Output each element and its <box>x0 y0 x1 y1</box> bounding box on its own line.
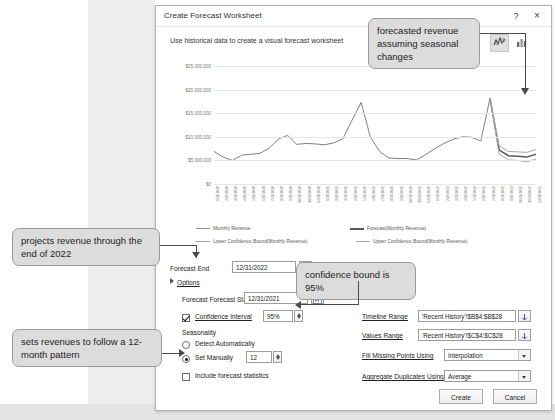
values-range-input[interactable]: 'Recent History'!$C$4:$C$28 <box>418 329 516 341</box>
callout-connector-confidence-v <box>358 281 359 305</box>
callout-projects-revenue: projects revenue through the end of 2022 <box>12 228 160 266</box>
options-label: Options <box>177 279 200 286</box>
cancel-button[interactable]: Cancel <box>493 389 537 404</box>
chart-series-line <box>490 98 536 152</box>
chart-x-tick-label: 7/31/2021 <box>381 186 385 201</box>
chevron-down-icon[interactable] <box>518 371 530 381</box>
set-manually-spinner[interactable] <box>273 351 282 363</box>
create-button[interactable]: Create <box>439 389 483 404</box>
set-manually-input[interactable]: 12 <box>246 351 272 363</box>
chart-y-tick-label: $25,000,000 <box>185 64 211 69</box>
forecast-start-label: Forecast Forecast Start <box>182 296 251 303</box>
values-range-label: Values Range <box>362 332 403 339</box>
legend-item-upper-bound: Upper Confidence Bound(Monthly Revenue) <box>356 239 467 244</box>
chart-x-tick-label: 1/31/2020 <box>216 186 220 201</box>
include-forecast-statistics-label: Include forecast statistics <box>195 372 269 379</box>
spinner-down-icon[interactable] <box>297 316 301 319</box>
legend-item-monthly-revenue: Monthly Revenue <box>196 226 250 231</box>
chart-x-tick-label: 5/31/2021 <box>363 186 367 201</box>
callout-connector-projects-h <box>160 245 197 246</box>
legend-swatch-line <box>196 241 210 242</box>
chart-y-tick-label: $0 <box>206 182 211 187</box>
chart-legend: Monthly Revenue Forecast(Monthly Revenue… <box>170 226 538 252</box>
aggregate-duplicates-label: Aggregate Duplicates Using <box>362 373 444 380</box>
close-icon[interactable]: × <box>530 9 544 23</box>
chart-x-tick-label: 6/30/2020 <box>262 186 266 201</box>
chart-x-tick-label: 9/30/2022 <box>510 186 514 201</box>
dialog-titlebar: Create Forecast Worksheet ? × <box>156 6 551 27</box>
chart-x-tick-label: 1/31/2021 <box>326 186 330 201</box>
chart-y-tick-label: $20,000,000 <box>185 87 211 92</box>
confidence-interval-input[interactable]: 95% <box>263 310 293 322</box>
confidence-interval-label: Confidence Interval <box>195 313 252 320</box>
chart-y-axis: $25,000,000$20,000,000$15,000,000$10,000… <box>170 66 211 184</box>
chart-x-tick-label: 4/30/2021 <box>354 186 358 201</box>
spinner-down-icon[interactable] <box>276 357 280 360</box>
chart-x-tick-label: 2/28/2022 <box>446 186 450 201</box>
chart-x-tick-label: 10/31/2022 <box>519 186 523 203</box>
create-forecast-worksheet-dialog: Create Forecast Worksheet ? × Use histor… <box>155 5 552 411</box>
options-expander[interactable]: Options <box>170 279 200 286</box>
chart-x-tick-label: 11/30/2022 <box>528 186 532 203</box>
chart-x-tick-label: 10/31/2021 <box>409 186 413 203</box>
aggregate-duplicates-select[interactable]: Average <box>444 370 531 382</box>
chart-x-tick-label: 3/31/2021 <box>344 186 348 201</box>
callout-seasonality: sets revenues to follow a 12-month patte… <box>12 329 162 367</box>
fill-missing-points-select[interactable]: Interpolation <box>444 349 531 361</box>
legend-item-forecast: Forecast(Monthly Revenue) <box>350 226 426 231</box>
callout-confidence-bound: confidence bound is 95% <box>296 262 416 300</box>
chart-x-tick-label: 8/31/2022 <box>501 186 505 201</box>
dialog-title: Create Forecast Worksheet <box>164 11 262 20</box>
callout-connector-seasonality-h <box>162 353 180 354</box>
line-chart-icon[interactable] <box>490 34 509 52</box>
chart-x-tick-label: 11/30/2020 <box>308 186 312 203</box>
chevron-down-icon[interactable] <box>518 350 530 360</box>
chart-x-tick-label: 8/31/2020 <box>280 186 284 201</box>
legend-label: Lower Confidence Bound(Monthly Revenue) <box>213 239 307 244</box>
forecast-chart: $25,000,000$20,000,000$15,000,000$10,000… <box>170 54 538 254</box>
chart-x-tick-label: 5/31/2022 <box>473 186 477 201</box>
chart-x-tick-label: 4/30/2020 <box>243 186 247 201</box>
confidence-interval-checkbox[interactable] <box>182 314 190 322</box>
callout-arrow-projects <box>192 252 200 258</box>
fill-missing-points-value: Interpolation <box>448 352 483 359</box>
timeline-range-picker-icon[interactable] <box>518 310 531 322</box>
chart-x-tick-label: 5/31/2020 <box>252 186 256 201</box>
chart-x-tick-label: 7/31/2022 <box>492 186 496 201</box>
detect-automatically-radio[interactable] <box>182 341 190 349</box>
values-range-picker-icon[interactable] <box>518 329 531 341</box>
detect-automatically-label: Detect Automatically <box>195 340 255 347</box>
include-forecast-statistics-checkbox[interactable] <box>182 373 190 381</box>
fill-missing-points-label: Fill Missing Points Using <box>362 352 433 359</box>
chart-x-tick-label: 8/31/2021 <box>390 186 394 201</box>
aggregate-duplicates-value: Average <box>448 373 471 380</box>
chart-x-tick-label: 9/30/2021 <box>400 186 404 201</box>
chart-gridline <box>214 160 536 161</box>
chart-x-tick-label: 9/30/2020 <box>289 186 293 201</box>
expander-triangle-icon <box>170 278 174 284</box>
chart-series-line <box>490 98 536 157</box>
confidence-interval-spinner[interactable] <box>294 310 303 322</box>
seasonality-group-label: Seasonality <box>182 329 216 336</box>
chart-x-tick-label: 1/31/2022 <box>436 186 440 201</box>
column-chart-icon[interactable] <box>512 34 531 52</box>
chart-x-tick-label: 2/29/2020 <box>225 186 229 201</box>
callout-connector-confidence-h <box>299 304 359 305</box>
chart-gridline <box>214 113 536 114</box>
chart-x-tick-label: 6/30/2022 <box>482 186 486 201</box>
timeline-range-input[interactable]: 'Recent History'!$B$4:$B$28 <box>418 310 516 322</box>
legend-swatch-line <box>356 241 370 242</box>
chart-x-tick-label: 10/31/2020 <box>298 186 302 203</box>
legend-label: Forecast(Monthly Revenue) <box>367 226 426 231</box>
legend-label: Monthly Revenue <box>213 226 250 231</box>
forecast-end-label: Forecast End <box>170 265 209 272</box>
chart-x-tick-label: 7/31/2020 <box>271 186 275 201</box>
help-icon[interactable]: ? <box>509 9 523 23</box>
chart-series-svg <box>214 66 536 184</box>
chart-x-tick-label: 2/28/2021 <box>335 186 339 201</box>
legend-label: Upper Confidence Bound(Monthly Revenue) <box>373 239 467 244</box>
forecast-end-input[interactable]: 12/31/2022 <box>232 261 296 273</box>
chart-series-line <box>490 98 536 162</box>
chart-y-tick-label: $15,000,000 <box>185 111 211 116</box>
chart-x-tick-label: 6/30/2021 <box>372 186 376 201</box>
